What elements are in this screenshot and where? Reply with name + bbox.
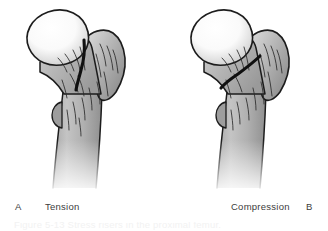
panel-b-compression bbox=[164, 0, 328, 196]
panel-a-tension bbox=[0, 0, 164, 196]
femoral-head-a bbox=[27, 10, 89, 65]
lesser-trochanter-b bbox=[216, 102, 226, 128]
cropped-caption-fragment: Figure 5-13 Stress risers in the proxima… bbox=[0, 222, 328, 231]
lesser-trochanter-a bbox=[52, 102, 62, 128]
figure-illustration: A Tension Compression B Figure 5-13 Stre… bbox=[0, 0, 328, 231]
caption-row: A Tension Compression B bbox=[0, 196, 328, 220]
femur-illustration-b bbox=[164, 0, 328, 196]
shaft-fade-b bbox=[164, 140, 328, 196]
panel-b-letter: B bbox=[306, 201, 313, 213]
panel-b-label: Compression bbox=[231, 201, 290, 213]
panel-a-label: Tension bbox=[45, 201, 80, 213]
femur-illustration-a bbox=[0, 0, 164, 196]
panel-a-letter: A bbox=[15, 201, 22, 213]
cropped-caption-text: Figure 5-13 Stress risers in the proxima… bbox=[14, 222, 221, 230]
femoral-head-b bbox=[191, 10, 253, 65]
shaft-fade-a bbox=[0, 140, 164, 196]
